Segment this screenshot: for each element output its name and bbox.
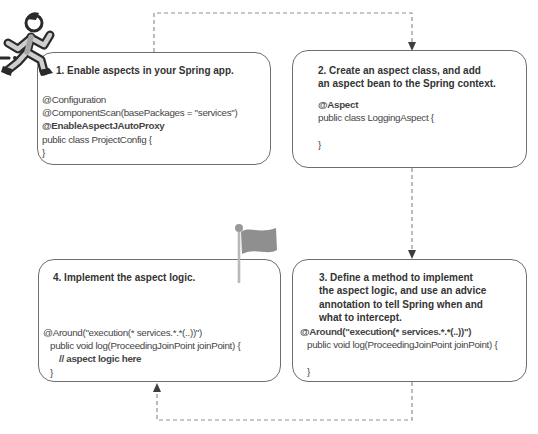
code-line: @Around("execution(* services.*.*(..))") [43,326,240,339]
code-line: @Aspect [318,98,434,111]
step1-box: 1. Enable aspects in your Spring app. @C… [37,52,271,165]
step4-code: @Around("execution(* services.*.*(..))")… [43,326,240,379]
step3-title-line: what to intercept. [319,311,486,324]
arrowhead-down-step3-icon [408,250,416,259]
step3-title: 3. Define a method to implement the aspe… [319,271,486,324]
step1-code: @Configuration @ComponentScan(basePackag… [42,93,237,159]
code-line: public void log(ProceedingJoinPoint join… [300,338,497,351]
step3-box: 3. Define a method to implement the aspe… [292,259,527,382]
step2-code: @Aspect public class LoggingAspect { } [318,98,434,151]
step3-title-line: the aspect logic, and use an advice [319,284,486,297]
code-line: public class ProjectConfig { [42,133,237,146]
step4-title: 4. Implement the aspect logic. [53,271,195,284]
step4-title-line: 4. Implement the aspect logic. [53,271,195,284]
step1-title-line: 1. Enable aspects in your Spring app. [56,64,234,77]
step2-title-line: 2. Create an aspect class, and add [318,64,496,77]
arrowhead-up-step4-icon [153,383,161,392]
runner-hair [26,12,39,20]
code-line [300,351,497,364]
connector-step1-to-step2 [154,13,412,52]
code-line: // aspect logic here [43,352,240,365]
code-line: @ComponentScan(basePackages = "services"… [42,106,237,119]
step1-title: 1. Enable aspects in your Spring app. [56,64,234,77]
code-line: public void log(ProceedingJoinPoint join… [43,339,240,352]
step4-box: 4. Implement the aspect logic. @Around("… [38,259,281,382]
step3-title-line: annotation to tell Spring when and [319,298,486,311]
code-line: } [318,138,434,151]
step3-code: @Around("execution(* services.*.*(..))")… [300,325,497,378]
step2-title: 2. Create an aspect class, and add an as… [318,64,496,91]
runner-back-shoe [1,66,12,76]
spring-aspects-diagram: 1. Enable aspects in your Spring app. @C… [0,0,538,434]
code-line: } [300,365,497,378]
step2-box: 2. Create an aspect class, and add an as… [292,50,527,168]
step3-title-line: 3. Define a method to implement [319,271,486,284]
connector-step3-to-step4 [157,382,412,420]
code-line: } [42,146,237,159]
code-line: @Configuration [42,93,237,106]
code-line: @EnableAspectJAutoProxy [42,119,237,132]
step2-title-line: an aspect bean to the Spring context. [318,77,496,90]
code-line: @Around("execution(* services.*.*(..))") [300,325,497,338]
code-line: } [43,366,240,379]
code-line: public class LoggingAspect { [318,111,434,124]
code-line [318,124,434,137]
